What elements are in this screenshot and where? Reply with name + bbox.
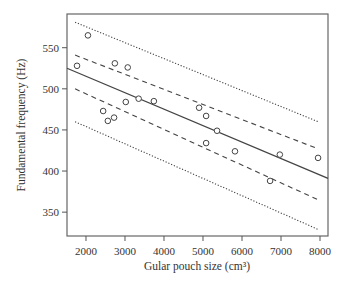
y-axis-title: Fundamental frequency (Hz): [15, 58, 28, 191]
data-point: [105, 118, 111, 124]
plot-frame: [67, 14, 328, 236]
data-point: [277, 152, 283, 158]
y-tick-label: 500: [43, 83, 60, 95]
data-point: [203, 113, 209, 119]
y-tick-label: 400: [43, 165, 60, 177]
data-point: [203, 140, 209, 146]
data-point: [315, 155, 321, 161]
x-axis-ticks: 2000300040005000600070008000: [75, 236, 332, 257]
y-tick-label: 550: [43, 42, 60, 54]
data-point: [214, 128, 220, 134]
data-point: [74, 63, 80, 69]
y-tick-label: 350: [43, 206, 60, 218]
data-point: [196, 105, 202, 111]
x-tick-label: 6000: [231, 245, 254, 257]
data-point: [85, 33, 91, 39]
x-axis-title: Gular pouch size (cm³): [144, 260, 250, 273]
data-point: [151, 98, 157, 104]
data-point: [267, 178, 273, 184]
x-tick-label: 7000: [270, 245, 293, 257]
data-point: [123, 99, 129, 105]
y-tick-label: 450: [43, 124, 60, 136]
confidence-lower-line: [75, 89, 318, 200]
data-point: [232, 149, 238, 155]
y-axis-ticks: 350400450500550: [43, 42, 68, 218]
x-tick-label: 4000: [153, 245, 176, 257]
data-point: [112, 61, 118, 67]
prediction-lower-line: [75, 122, 318, 230]
confidence-upper-line: [75, 55, 318, 149]
lines-layer: [67, 22, 328, 229]
data-point: [100, 108, 106, 114]
x-tick-label: 2000: [75, 245, 98, 257]
x-tick-label: 8000: [309, 245, 332, 257]
scatter-chart: 2000300040005000600070008000 35040045050…: [0, 0, 349, 289]
data-point: [136, 96, 142, 102]
data-point: [125, 65, 131, 71]
data-point: [111, 115, 117, 121]
x-tick-label: 5000: [192, 245, 215, 257]
x-tick-label: 3000: [114, 245, 137, 257]
